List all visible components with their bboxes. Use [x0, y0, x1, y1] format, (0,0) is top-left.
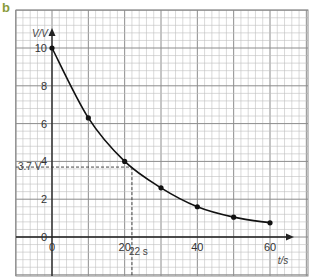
discharge-chart: 3.7 V22 s 02468100204060V/Vt/s: [0, 0, 312, 280]
x-axis-title: t/s: [278, 255, 289, 266]
data-point-marker: [49, 45, 54, 50]
tick-labels: 02468100204060V/Vt/s: [32, 28, 288, 266]
x-tick-label: 40: [191, 241, 203, 253]
y-tick-label: 0: [41, 231, 47, 243]
y-tick-label: 4: [41, 155, 47, 167]
graph-paper-grid: [16, 10, 308, 276]
x-tick-label: 60: [264, 241, 276, 253]
data-point-marker: [267, 220, 272, 225]
y-axis-arrow-icon: [49, 28, 56, 36]
x-tick-label: 0: [49, 241, 55, 253]
y-tick-label: 2: [41, 193, 47, 205]
data-point-marker: [158, 185, 163, 190]
grid-border: [16, 10, 308, 276]
y-tick-label: 10: [35, 42, 47, 54]
y-axis-title: V/V: [32, 28, 49, 39]
x-axis-arrow-icon: [286, 234, 294, 241]
y-tick-label: 6: [41, 118, 47, 130]
x-tick-label: 20: [119, 241, 131, 253]
annotation-x-label: 22 s: [129, 246, 148, 257]
y-tick-label: 8: [41, 80, 47, 92]
chart-axes: [16, 28, 294, 276]
annotation-y-label: 3.7 V: [18, 161, 42, 172]
data-point-marker: [231, 215, 236, 220]
data-point-marker: [195, 204, 200, 209]
guide-annotation: 3.7 V22 s: [16, 161, 148, 276]
data-point-marker: [86, 115, 91, 120]
data-point-marker: [122, 159, 127, 164]
